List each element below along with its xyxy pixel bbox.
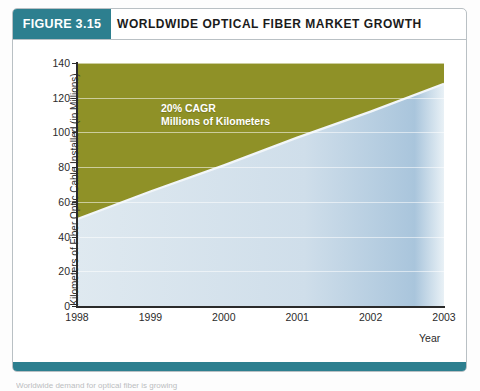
caption-sliver: Worldwide demand for optical fiber is gr… <box>16 381 456 391</box>
x-axis-title: Year <box>419 332 440 344</box>
y-tick-label: 60 <box>44 196 70 208</box>
y-tick-label: 120 <box>44 92 70 104</box>
plot-region: 20% CAGRMillions of Kilometers <box>77 63 444 306</box>
y-tick-label: 100 <box>44 126 70 138</box>
y-tick-label: 140 <box>44 57 70 69</box>
y-axis-title: Kilometers of Fiber Optic Cable Installe… <box>69 65 80 315</box>
x-tick-label: 2003 <box>432 311 455 323</box>
figure-title: WORLDWIDE OPTICAL FIBER MARKET GROWTH <box>117 9 422 39</box>
x-tick-label: 2000 <box>212 311 235 323</box>
annotation-line: 20% CAGR <box>161 102 270 115</box>
y-tick-label: 20 <box>44 265 70 277</box>
figure-bottom-rule <box>13 362 466 371</box>
figure-number-badge: FIGURE 3.15 <box>13 9 111 39</box>
chart-area: 20% CAGRMillions of Kilometers 020406080… <box>13 40 467 364</box>
area-series-fill <box>77 63 444 306</box>
x-axis-line <box>76 306 445 308</box>
chart-annotation: 20% CAGRMillions of Kilometers <box>161 102 270 128</box>
x-tick-label: 1999 <box>139 311 162 323</box>
y-tick-label: 40 <box>44 231 70 243</box>
x-tick-label: 2002 <box>359 311 382 323</box>
annotation-line: Millions of Kilometers <box>161 115 270 128</box>
y-tick-label: 80 <box>44 161 70 173</box>
figure-header: FIGURE 3.15 WORLDWIDE OPTICAL FIBER MARK… <box>13 9 466 40</box>
scan-page: FIGURE 3.15 WORLDWIDE OPTICAL FIBER MARK… <box>0 0 480 391</box>
x-tick-label: 2001 <box>286 311 309 323</box>
figure-container: FIGURE 3.15 WORLDWIDE OPTICAL FIBER MARK… <box>12 8 467 372</box>
